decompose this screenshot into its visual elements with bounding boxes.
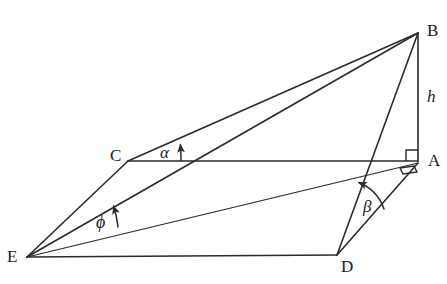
right-angle-icon-A-upper: [406, 150, 418, 161]
angle-marker-group: [114, 145, 384, 228]
edge-E-B: [27, 33, 418, 257]
edge-D-B: [337, 33, 418, 255]
angle-label-beta: β: [363, 198, 371, 215]
angle-arc-alpha: [180, 145, 181, 161]
angle-label-alpha: α: [160, 144, 169, 161]
edge-C-B: [128, 33, 418, 161]
edge-group: [27, 33, 418, 257]
vertex-label-D: D: [341, 258, 353, 275]
vertex-label-E: E: [7, 248, 17, 265]
right-angle-marker-group: [400, 150, 418, 174]
figure-canvas: [0, 0, 447, 284]
angle-arc-phi: [114, 206, 118, 227]
edge-E-D: [27, 255, 337, 257]
edge-E-C: [27, 161, 128, 257]
angle-label-phi: ϕ: [96, 213, 105, 231]
edge-E-A: [27, 163, 418, 257]
vertex-label-B: B: [427, 22, 438, 39]
vertex-label-A: A: [428, 152, 440, 169]
vertex-label-C: C: [110, 147, 121, 164]
right-angle-icon-A-lower: [400, 166, 417, 174]
geometry-diagram: B A C E D α β ϕ h: [0, 0, 447, 284]
edge-D-A: [337, 163, 418, 255]
length-label-h: h: [427, 88, 436, 105]
